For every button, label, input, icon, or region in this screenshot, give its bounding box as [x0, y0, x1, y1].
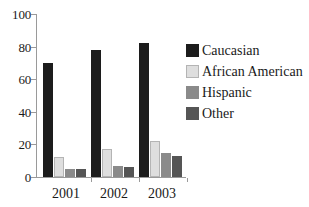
- bar-hispanic: [113, 166, 123, 177]
- bar-other: [172, 156, 182, 177]
- bar-group: [91, 14, 137, 177]
- x-axis-tick-label: 2003: [131, 186, 193, 202]
- y-axis-tick: [31, 177, 36, 178]
- y-axis-tick-label: 80: [0, 41, 31, 54]
- legend-item: African American: [186, 61, 306, 82]
- y-axis-tick-label: 20: [0, 138, 31, 151]
- bar-group: [139, 14, 185, 177]
- y-axis-tick: [31, 14, 36, 15]
- legend-item-label: Hispanic: [202, 85, 252, 100]
- bar-other: [76, 169, 86, 177]
- bar-caucasian: [139, 43, 149, 177]
- plot-area: 200120022003: [36, 14, 186, 178]
- y-axis-tick: [31, 79, 36, 80]
- y-axis-tick: [31, 144, 36, 145]
- bar-african-american: [150, 141, 160, 177]
- y-axis-tick-label: 0: [0, 171, 31, 184]
- legend-item: Other: [186, 103, 306, 124]
- bar-hispanic: [65, 169, 75, 177]
- y-axis-line: [36, 14, 37, 178]
- legend-swatch-hispanic: [186, 86, 199, 99]
- chart-legend: CaucasianAfrican AmericanHispanicOther: [186, 40, 306, 124]
- bar-group: [43, 14, 89, 177]
- x-axis-tick: [187, 178, 188, 182]
- legend-item-label: Other: [202, 106, 234, 121]
- x-axis-tick: [139, 178, 140, 182]
- bar-caucasian: [91, 50, 101, 177]
- bar-african-american: [102, 149, 112, 177]
- bar-caucasian: [43, 63, 53, 177]
- y-axis-tick: [31, 112, 36, 113]
- legend-swatch-african-american: [186, 65, 199, 78]
- x-axis-line: [36, 177, 186, 178]
- y-axis-tick-label: 60: [0, 73, 31, 86]
- legend-item-label: Caucasian: [202, 43, 260, 58]
- y-axis-tick: [31, 47, 36, 48]
- legend-item: Hispanic: [186, 82, 306, 103]
- bar-other: [124, 167, 134, 177]
- bar-african-american: [54, 157, 64, 177]
- y-axis-tick-label: 40: [0, 106, 31, 119]
- bar-chart: 020406080100 200120022003 CaucasianAfric…: [0, 0, 309, 207]
- legend-swatch-caucasian: [186, 44, 199, 57]
- legend-item: Caucasian: [186, 40, 306, 61]
- legend-swatch-other: [186, 107, 199, 120]
- x-axis-tick: [91, 178, 92, 182]
- bar-hispanic: [161, 153, 171, 177]
- y-axis-tick-label: 100: [0, 8, 31, 21]
- legend-item-label: African American: [202, 64, 303, 79]
